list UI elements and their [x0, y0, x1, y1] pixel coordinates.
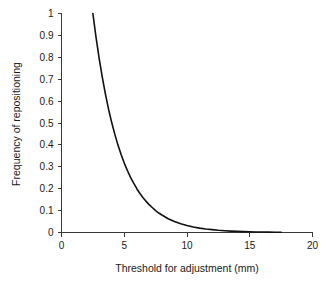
y-tick-label: 0.6 — [40, 96, 54, 107]
x-tick-label: 20 — [307, 240, 319, 251]
chart-figure: 00.10.20.30.40.50.60.70.80.91 Frequency … — [0, 0, 326, 284]
y-tick-label: 0.4 — [40, 139, 54, 150]
x-axis-title: Threshold for adjustment (mm) — [115, 262, 259, 274]
y-tick-label: 0.9 — [40, 30, 54, 41]
y-tick-label: 0.5 — [40, 118, 54, 129]
x-tick-label: 0 — [59, 240, 65, 251]
chart-canvas: 00.10.20.30.40.50.60.70.80.91 Frequency … — [0, 0, 326, 284]
y-tick-label: 0.7 — [40, 74, 54, 85]
y-tick-label: 0.1 — [40, 205, 54, 216]
y-tick-label: 1 — [48, 8, 54, 19]
y-axis-title: Frequency of repositioning — [10, 62, 22, 186]
y-tick-label: 0 — [48, 227, 54, 238]
x-tick-label: 15 — [244, 240, 256, 251]
x-tick-label: 10 — [181, 240, 193, 251]
y-tick-label: 0.2 — [40, 183, 54, 194]
y-tick-label: 0.3 — [40, 161, 54, 172]
x-tick-label: 5 — [121, 240, 127, 251]
y-tick-label: 0.8 — [40, 52, 54, 63]
